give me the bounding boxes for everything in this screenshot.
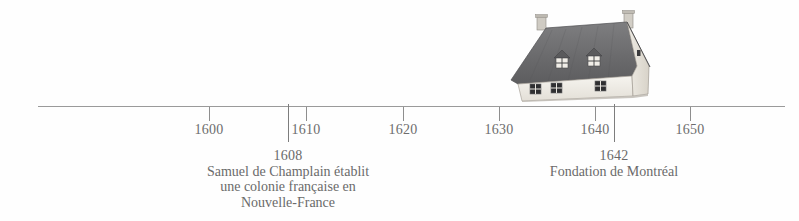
event-text-line-1: Samuel de Champlain établit xyxy=(207,164,369,180)
tick-label-1610: 1610 xyxy=(291,122,320,138)
tick-1620 xyxy=(403,107,404,121)
timeline-axis xyxy=(38,106,785,107)
tick-1630 xyxy=(499,107,500,121)
gable-window xyxy=(637,50,641,56)
tick-label-1630: 1630 xyxy=(484,122,513,138)
tick-label-1640: 1640 xyxy=(580,122,609,138)
event-text-line-1: Fondation de Montréal xyxy=(550,164,678,180)
event-caption-1608: 1608 Samuel de Champlain établit une col… xyxy=(207,148,369,210)
tick-event-1608 xyxy=(288,104,289,142)
window-3 xyxy=(595,81,606,91)
event-year-1642: 1642 xyxy=(550,148,678,164)
tick-event-1642 xyxy=(614,104,615,142)
event-text-line-2: une colonie française en xyxy=(207,179,369,195)
tick-label-1600: 1600 xyxy=(194,122,223,138)
event-year-1608: 1608 xyxy=(207,148,369,164)
roof xyxy=(511,22,637,84)
chimney-left xyxy=(536,15,548,31)
window-2 xyxy=(551,83,562,93)
tick-label-1650: 1650 xyxy=(675,122,704,138)
tick-1650 xyxy=(690,107,691,121)
timeline-figure: 1600 1610 1620 1630 1640 1650 1608 Samue… xyxy=(0,0,799,221)
tick-1600 xyxy=(209,107,210,121)
window-1 xyxy=(530,84,541,94)
event-caption-1642: 1642 Fondation de Montréal xyxy=(550,148,678,179)
tick-1640 xyxy=(595,107,596,121)
tick-label-1620: 1620 xyxy=(388,122,417,138)
house-illustration xyxy=(500,6,655,104)
event-text-line-3: Nouvelle-France xyxy=(207,195,369,211)
tick-1610 xyxy=(306,107,307,121)
